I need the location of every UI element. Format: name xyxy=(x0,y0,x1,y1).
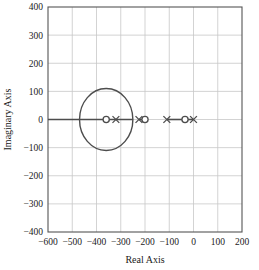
y-tick-label: −300 xyxy=(23,199,43,209)
x-tick-label: 0 xyxy=(191,237,196,247)
zero-marker xyxy=(103,116,109,122)
y-tick-label: 100 xyxy=(29,87,44,97)
x-tick-label: 100 xyxy=(211,237,226,247)
x-tick-label: −200 xyxy=(135,237,155,247)
y-tick-label: 0 xyxy=(38,115,43,125)
zero-marker xyxy=(142,116,148,122)
root-locus-chart: −600−500−400−300−200−1000100200400300200… xyxy=(0,0,259,270)
root-locus-figure: −600−500−400−300−200−1000100200400300200… xyxy=(0,0,259,270)
y-tick-label: 400 xyxy=(29,2,44,12)
tick-labels: −600−500−400−300−200−1000100200400300200… xyxy=(23,2,249,247)
y-tick-label: −200 xyxy=(23,171,43,181)
x-tick-label: 200 xyxy=(235,237,250,247)
y-tick-label: −100 xyxy=(23,143,43,153)
y-tick-label: 200 xyxy=(29,59,44,69)
x-tick-label: −600 xyxy=(38,237,58,247)
y-tick-label: 300 xyxy=(29,31,44,41)
y-tick-label: −400 xyxy=(23,227,43,237)
x-tick-label: −300 xyxy=(111,237,131,247)
x-axis-title: Real Axis xyxy=(125,254,164,265)
y-axis-title: Imaginary Axis xyxy=(2,88,13,150)
x-tick-label: −400 xyxy=(87,237,107,247)
zero-marker xyxy=(182,116,188,122)
x-tick-label: −500 xyxy=(62,237,82,247)
x-tick-label: −100 xyxy=(159,237,179,247)
